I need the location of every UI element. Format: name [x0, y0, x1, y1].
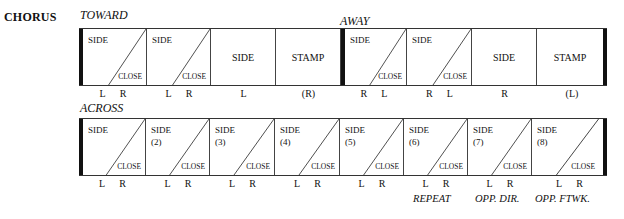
step-cell: SIDE(8) CLOSE [532, 119, 607, 175]
step-side: SIDE [88, 124, 108, 136]
step-side: SIDE(8) [537, 124, 557, 148]
step-close: CLOSE [375, 162, 399, 171]
step-cell: SIDE(5) CLOSE [340, 119, 404, 175]
foot: R [119, 178, 126, 189]
foot: R [361, 88, 368, 99]
step-side: SIDE [152, 34, 172, 46]
foot: L [166, 88, 172, 99]
step-side: SIDE [350, 34, 370, 46]
step-cell: SIDE CLOSE [79, 29, 147, 85]
foot: R [185, 178, 192, 189]
foot: R [576, 178, 583, 189]
step-cell: SIDE(2) CLOSE [146, 119, 210, 175]
step-stamp: STAMP [276, 29, 340, 85]
step-side: SIDE(7) [473, 124, 493, 148]
foot: L [240, 88, 246, 99]
step-cell: STAMP [537, 29, 607, 85]
step-close: CLOSE [503, 162, 527, 171]
step-cell: SIDE(7) CLOSE [468, 119, 532, 175]
foot: R [120, 88, 127, 99]
step-side: SIDE(2) [151, 124, 171, 148]
foot: R [379, 178, 386, 189]
step-row-toward-away: SIDE CLOSE SIDE CLOSE SIDE STAMP SIDE CL… [79, 28, 607, 86]
step-side: SIDE(4) [280, 124, 300, 148]
footwork-row: LR LR L (R) RL RL R (L) [79, 88, 607, 99]
foot: L [423, 178, 429, 189]
step-stamp: STAMP [537, 29, 603, 85]
step-close: CLOSE [117, 162, 141, 171]
step-cell: STAMP [276, 29, 341, 85]
foot: L [229, 178, 235, 189]
foot: L [487, 178, 493, 189]
step-close: CLOSE [181, 162, 205, 171]
note-repeat: REPEAT [413, 193, 451, 204]
step-close: CLOSE [246, 162, 270, 171]
foot: R [249, 178, 256, 189]
step-close: CLOSE [378, 72, 402, 81]
step-cell: SIDE(3) CLOSE [210, 119, 275, 175]
foot: L [99, 178, 105, 189]
step-side: SIDE(5) [345, 124, 365, 148]
step-cell: SIDE CLOSE [407, 29, 472, 85]
foot: (L) [566, 88, 579, 99]
step-side: SIDE [211, 29, 275, 85]
section-label-chorus: CHORUS [4, 10, 57, 25]
step-cell: SIDE CLOSE [79, 119, 146, 175]
foot: L [100, 88, 106, 99]
foot: R [443, 178, 450, 189]
foot: R [501, 88, 508, 99]
step-side: SIDE [472, 29, 536, 85]
foot: L [165, 178, 171, 189]
foot: R [186, 88, 193, 99]
foot: L [556, 178, 562, 189]
note-opp-dir: OPP. DIR. [475, 193, 519, 204]
step-close: CLOSE [118, 72, 142, 81]
step-side: SIDE [412, 34, 432, 46]
step-close: CLOSE [571, 162, 595, 171]
footwork-row: LR LR LR LR LR LR LR LR [79, 178, 607, 189]
foot: L [381, 88, 387, 99]
step-cell: SIDE CLOSE [147, 29, 211, 85]
foot: (R) [302, 88, 315, 99]
step-side: SIDE [88, 34, 108, 46]
step-close: CLOSE [182, 72, 206, 81]
foot: L [359, 178, 365, 189]
step-cell: SIDE CLOSE [341, 29, 407, 85]
step-cell: SIDE(6) CLOSE [404, 119, 468, 175]
foot: L [447, 88, 453, 99]
group-label-away: AWAY [340, 14, 369, 29]
foot: R [314, 178, 321, 189]
step-cell: SIDE [472, 29, 537, 85]
group-label-toward: TOWARD [80, 8, 128, 23]
step-close: CLOSE [443, 72, 467, 81]
step-row-across: SIDE CLOSE SIDE(2) CLOSE SIDE(3) CLOSE S… [79, 118, 607, 176]
note-opp-ftwk: OPP. FTWK. [535, 193, 590, 204]
foot: L [294, 178, 300, 189]
step-close: CLOSE [439, 162, 463, 171]
foot: R [507, 178, 514, 189]
step-side: SIDE(3) [215, 124, 235, 148]
step-cell: SIDE(4) CLOSE [275, 119, 340, 175]
group-label-across: ACROSS [80, 101, 123, 116]
step-cell: SIDE [211, 29, 276, 85]
step-side: SIDE(6) [409, 124, 429, 148]
foot: R [426, 88, 433, 99]
step-close: CLOSE [311, 162, 335, 171]
